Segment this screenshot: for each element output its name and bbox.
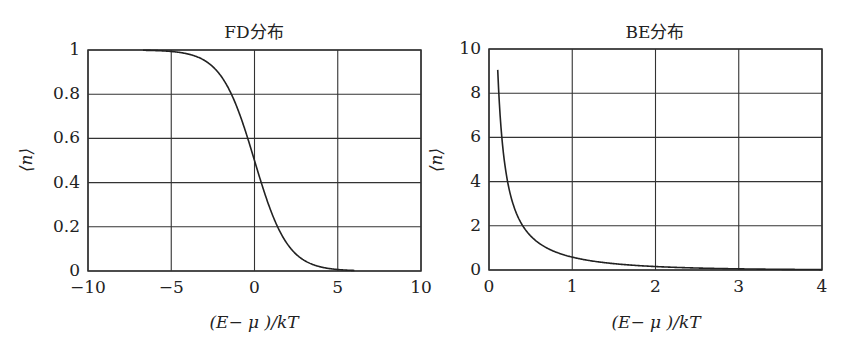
x-tick-label: 3 [714,276,764,296]
y-tick-label: 2 [431,215,481,235]
be-y-axis-label: ⟨n⟩ [426,148,446,172]
x-tick-label: 1 [547,276,597,296]
data-curve [498,70,822,270]
be-chart-panel: BE分布 0246810 01234 ⟨n⟩ (E− μ )/kT [0,0,848,352]
y-tick-label: 10 [431,38,481,58]
x-tick-label: 4 [797,276,847,296]
y-tick-label: 8 [431,82,481,102]
be-x-axis-label: (E− μ )/kT [556,312,756,332]
y-tick-label: 6 [431,126,481,146]
x-tick-label: 0 [464,276,514,296]
be-plot-area [0,0,848,352]
x-tick-label: 2 [631,276,681,296]
y-tick-label: 4 [431,171,481,191]
